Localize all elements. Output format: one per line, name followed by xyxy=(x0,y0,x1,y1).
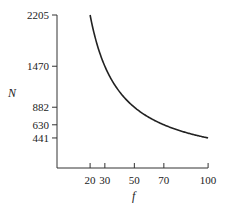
data-curve xyxy=(90,15,208,138)
x-axis-label: f xyxy=(132,189,137,203)
x-tick-label: 70 xyxy=(158,174,170,186)
x-tick-label: 50 xyxy=(129,174,141,186)
x-tick-label: 100 xyxy=(200,174,217,186)
y-tick-label: 630 xyxy=(33,119,50,131)
x-tick-label: 30 xyxy=(99,174,111,186)
chart: 44163088214702205 20305070100 N f xyxy=(0,0,228,212)
y-tick-label: 1470 xyxy=(27,60,50,72)
y-axis-label: N xyxy=(7,86,17,100)
x-ticks: 20305070100 xyxy=(85,163,217,186)
y-tick-label: 882 xyxy=(33,101,50,113)
y-tick-label: 2205 xyxy=(27,9,50,21)
y-tick-label: 441 xyxy=(33,132,50,144)
y-ticks: 44163088214702205 xyxy=(27,9,57,144)
x-tick-label: 20 xyxy=(85,174,97,186)
axes xyxy=(57,15,208,168)
